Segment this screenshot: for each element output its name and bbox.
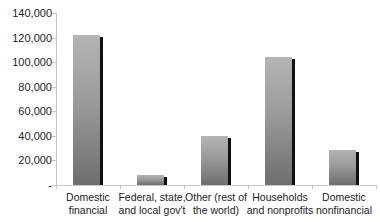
bar-1 bbox=[137, 175, 164, 185]
x-category-label: Domesticnonfinancial bbox=[308, 191, 380, 217]
bar-shadow bbox=[228, 138, 231, 185]
x-category-label: Householdsand nonprofits bbox=[244, 191, 316, 217]
y-tick bbox=[52, 38, 56, 39]
y-tick-label: 120,000 bbox=[12, 32, 52, 44]
bar-shadow bbox=[292, 59, 295, 185]
x-category-label: Domesticfinancial bbox=[52, 191, 124, 217]
bar-4 bbox=[329, 150, 356, 185]
bar-chart: -20,00040,00060,00080,000100,000120,0001… bbox=[0, 0, 380, 222]
y-tick-label: 80,000 bbox=[18, 81, 52, 93]
x-category-label-line: nonfinancial bbox=[308, 204, 380, 217]
x-tick bbox=[56, 185, 57, 189]
bar-2 bbox=[201, 136, 228, 185]
y-tick-label: 60,000 bbox=[18, 105, 52, 117]
y-tick bbox=[52, 111, 56, 112]
y-tick-label: 20,000 bbox=[18, 154, 52, 166]
x-category-label-line: financial bbox=[52, 204, 124, 217]
y-tick bbox=[52, 136, 56, 137]
bar-3 bbox=[265, 57, 292, 185]
x-tick bbox=[312, 185, 313, 189]
x-category-label-line: and local gov't bbox=[116, 204, 188, 217]
x-category-label-line: and nonprofits bbox=[244, 204, 316, 217]
y-tick bbox=[52, 13, 56, 14]
bar-shadow bbox=[164, 177, 167, 185]
y-tick-label: 140,000 bbox=[12, 7, 52, 19]
x-category-label-line: Households bbox=[244, 191, 316, 204]
y-tick bbox=[52, 87, 56, 88]
x-category-label-line: Other (rest of bbox=[180, 191, 252, 204]
x-axis bbox=[56, 185, 377, 186]
y-axis bbox=[56, 13, 57, 186]
x-tick bbox=[120, 185, 121, 189]
y-tick bbox=[52, 160, 56, 161]
y-tick-label: - bbox=[48, 179, 52, 191]
x-category-label-line: Federal, state, bbox=[116, 191, 188, 204]
y-tick bbox=[52, 62, 56, 63]
x-category-label-line: Domestic bbox=[308, 191, 380, 204]
x-category-label: Other (rest ofthe world) bbox=[180, 191, 252, 217]
bar-shadow bbox=[100, 37, 103, 185]
bar-shadow bbox=[356, 152, 359, 185]
y-tick-label: 40,000 bbox=[18, 130, 52, 142]
bar-0 bbox=[73, 35, 100, 185]
x-tick bbox=[376, 185, 377, 189]
y-tick-label: 100,000 bbox=[12, 56, 52, 68]
x-category-label: Federal, state,and local gov't bbox=[116, 191, 188, 217]
x-category-label-line: Domestic bbox=[52, 191, 124, 204]
x-tick bbox=[184, 185, 185, 189]
x-category-label-line: the world) bbox=[180, 204, 252, 217]
x-tick bbox=[248, 185, 249, 189]
